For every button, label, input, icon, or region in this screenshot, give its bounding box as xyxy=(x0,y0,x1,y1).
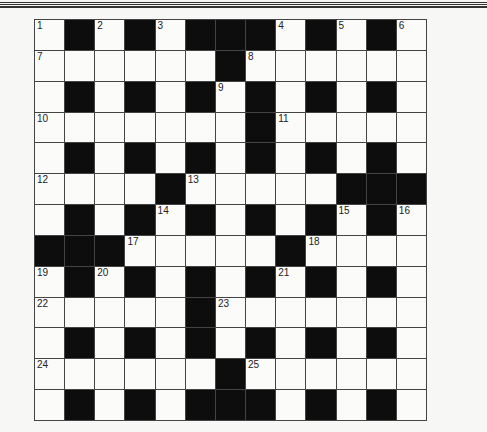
grid-cell[interactable] xyxy=(397,267,426,297)
grid-cell[interactable] xyxy=(95,328,124,358)
grid-cell[interactable] xyxy=(125,113,154,143)
grid-cell[interactable] xyxy=(156,82,185,112)
grid-cell[interactable]: 5 xyxy=(337,20,366,50)
grid-cell[interactable] xyxy=(337,267,366,297)
grid-cell[interactable]: 1 xyxy=(35,20,64,50)
grid-cell[interactable] xyxy=(35,82,64,112)
grid-cell[interactable] xyxy=(337,236,366,266)
grid-cell[interactable] xyxy=(156,143,185,173)
grid-cell[interactable] xyxy=(186,236,215,266)
grid-cell[interactable] xyxy=(65,51,94,81)
grid-cell[interactable]: 14 xyxy=(156,205,185,235)
grid-cell[interactable] xyxy=(306,298,335,328)
grid-cell[interactable]: 11 xyxy=(276,113,305,143)
grid-cell[interactable]: 21 xyxy=(276,267,305,297)
grid-cell[interactable] xyxy=(337,298,366,328)
grid-cell[interactable] xyxy=(186,51,215,81)
grid-cell[interactable] xyxy=(337,359,366,389)
grid-cell[interactable] xyxy=(246,298,275,328)
grid-cell[interactable] xyxy=(337,82,366,112)
grid-cell[interactable] xyxy=(397,390,426,420)
grid-cell[interactable] xyxy=(397,236,426,266)
grid-cell[interactable] xyxy=(246,236,275,266)
grid-cell[interactable] xyxy=(95,359,124,389)
grid-cell[interactable] xyxy=(156,236,185,266)
grid-cell[interactable] xyxy=(276,143,305,173)
grid-cell[interactable]: 16 xyxy=(397,205,426,235)
grid-cell[interactable] xyxy=(125,51,154,81)
grid-cell[interactable] xyxy=(216,143,245,173)
grid-cell[interactable]: 7 xyxy=(35,51,64,81)
grid-cell[interactable]: 24 xyxy=(35,359,64,389)
grid-cell[interactable] xyxy=(95,143,124,173)
grid-cell[interactable] xyxy=(95,113,124,143)
grid-cell[interactable] xyxy=(306,113,335,143)
grid-cell[interactable] xyxy=(156,390,185,420)
grid-cell[interactable] xyxy=(95,174,124,204)
grid-cell[interactable] xyxy=(65,359,94,389)
grid-cell[interactable] xyxy=(337,143,366,173)
grid-cell[interactable] xyxy=(35,390,64,420)
grid-cell[interactable] xyxy=(276,359,305,389)
grid-cell[interactable]: 12 xyxy=(35,174,64,204)
grid-cell[interactable] xyxy=(216,174,245,204)
grid-cell[interactable] xyxy=(367,51,396,81)
grid-cell[interactable] xyxy=(156,51,185,81)
grid-cell[interactable] xyxy=(156,359,185,389)
grid-cell[interactable]: 10 xyxy=(35,113,64,143)
grid-cell[interactable]: 20 xyxy=(95,267,124,297)
grid-cell[interactable] xyxy=(397,51,426,81)
grid-cell[interactable] xyxy=(156,113,185,143)
grid-cell[interactable] xyxy=(367,298,396,328)
grid-cell[interactable] xyxy=(186,113,215,143)
grid-cell[interactable] xyxy=(125,174,154,204)
grid-cell[interactable] xyxy=(397,113,426,143)
grid-cell[interactable] xyxy=(276,82,305,112)
grid-cell[interactable] xyxy=(306,359,335,389)
grid-cell[interactable] xyxy=(306,51,335,81)
grid-cell[interactable] xyxy=(95,298,124,328)
grid-cell[interactable]: 3 xyxy=(156,20,185,50)
grid-cell[interactable]: 17 xyxy=(125,236,154,266)
grid-cell[interactable] xyxy=(276,328,305,358)
grid-cell[interactable] xyxy=(125,359,154,389)
grid-cell[interactable] xyxy=(397,328,426,358)
grid-cell[interactable] xyxy=(95,51,124,81)
grid-cell[interactable] xyxy=(216,328,245,358)
grid-cell[interactable] xyxy=(367,236,396,266)
grid-cell[interactable] xyxy=(397,359,426,389)
grid-cell[interactable] xyxy=(276,51,305,81)
grid-cell[interactable]: 13 xyxy=(186,174,215,204)
grid-cell[interactable]: 8 xyxy=(246,51,275,81)
grid-cell[interactable] xyxy=(367,359,396,389)
grid-cell[interactable] xyxy=(397,143,426,173)
grid-cell[interactable] xyxy=(337,390,366,420)
grid-cell[interactable]: 2 xyxy=(95,20,124,50)
grid-cell[interactable] xyxy=(276,390,305,420)
grid-cell[interactable] xyxy=(276,174,305,204)
grid-cell[interactable] xyxy=(216,267,245,297)
grid-cell[interactable]: 9 xyxy=(216,82,245,112)
grid-cell[interactable] xyxy=(216,113,245,143)
grid-cell[interactable]: 6 xyxy=(397,20,426,50)
grid-cell[interactable] xyxy=(125,298,154,328)
grid-cell[interactable]: 23 xyxy=(216,298,245,328)
grid-cell[interactable]: 19 xyxy=(35,267,64,297)
grid-cell[interactable] xyxy=(156,267,185,297)
grid-cell[interactable] xyxy=(95,205,124,235)
grid-cell[interactable] xyxy=(306,174,335,204)
grid-cell[interactable] xyxy=(216,205,245,235)
grid-cell[interactable] xyxy=(65,174,94,204)
grid-cell[interactable] xyxy=(35,205,64,235)
grid-cell[interactable] xyxy=(156,328,185,358)
grid-cell[interactable] xyxy=(35,328,64,358)
grid-cell[interactable] xyxy=(35,143,64,173)
grid-cell[interactable] xyxy=(65,298,94,328)
grid-cell[interactable] xyxy=(246,174,275,204)
grid-cell[interactable] xyxy=(95,390,124,420)
grid-cell[interactable] xyxy=(397,82,426,112)
grid-cell[interactable] xyxy=(276,298,305,328)
grid-cell[interactable] xyxy=(276,205,305,235)
grid-cell[interactable] xyxy=(367,113,396,143)
grid-cell[interactable] xyxy=(65,113,94,143)
